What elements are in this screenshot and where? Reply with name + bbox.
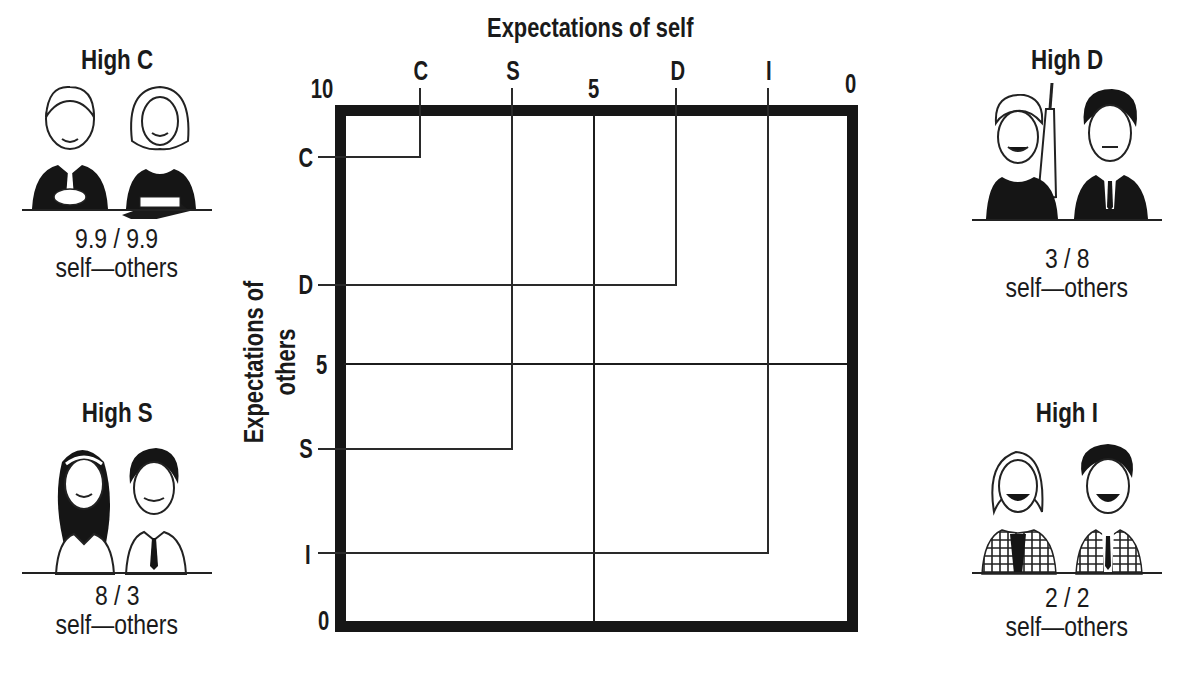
profile-high-d: High D 3 / 8 self—others [962, 45, 1172, 303]
x-tick-D: D [658, 58, 698, 85]
profile-score-label: self—others [962, 612, 1172, 642]
x-tick-I: I [749, 58, 789, 85]
desk-line [972, 572, 1162, 574]
marker-line-self-D [675, 88, 677, 286]
y-axis-title: Expectations of others [238, 217, 270, 507]
marker-line-self-C [419, 88, 421, 158]
profile-title: High D [962, 45, 1172, 75]
y-tick-C: C [286, 145, 326, 172]
x-tick-C: C [401, 58, 441, 85]
marker-line-others-S [318, 448, 513, 450]
x-tick-0: 0 [831, 71, 871, 98]
profile-title: High C [12, 45, 222, 75]
midline-vertical [593, 114, 595, 622]
profile-score-label: self—others [962, 273, 1172, 303]
profile-title: High S [12, 398, 222, 428]
y-tick-I: I [288, 542, 328, 569]
profile-score-label: self—others [12, 253, 222, 283]
high-s-cartoon-illustration [22, 432, 212, 582]
x-tick-5: 5 [574, 76, 614, 103]
profile-high-s: High S 8 / 3 self—others [12, 398, 222, 640]
x-axis-title: Expectations of self [440, 12, 740, 44]
marker-line-others-C [318, 156, 421, 158]
desk-line [972, 219, 1162, 221]
high-c-cartoon-illustration [22, 79, 212, 219]
midline-horizontal [344, 363, 847, 365]
x-tick-10: 10 [302, 76, 342, 103]
profile-score: 2 / 2 [962, 584, 1172, 612]
marker-line-self-I [767, 88, 769, 553]
marker-line-others-D [318, 284, 677, 286]
marker-line-others-I [318, 552, 769, 554]
profile-title: High I [962, 398, 1172, 428]
high-i-cartoon-illustration [972, 432, 1162, 582]
profile-score-label: self—others [12, 610, 222, 640]
profile-score: 3 / 8 [962, 245, 1172, 273]
desk-line [22, 209, 212, 211]
high-d-cartoon-illustration [972, 79, 1162, 229]
profile-score: 9.9 / 9.9 [12, 225, 222, 253]
profile-high-c: High C 9.9 / 9.9 self—others [12, 45, 222, 283]
marker-line-self-S [511, 88, 513, 450]
desk-line [22, 572, 212, 574]
profile-score: 8 / 3 [12, 582, 222, 610]
x-tick-S: S [493, 58, 533, 85]
profile-high-i: High I 2 / 2 self—others [962, 398, 1172, 642]
